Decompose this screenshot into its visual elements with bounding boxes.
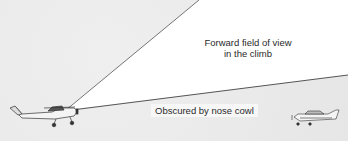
field-of-view-diagram: Forward field of view in the climb Obscu… [0,0,348,141]
fov-label-line1: Forward field of view [196,37,300,48]
climbing-aircraft-icon [10,106,78,127]
fov-label-line2: in the climb [196,48,300,59]
forward-field-of-view-label: Forward field of view in the climb [196,37,300,59]
distant-aircraft-icon [292,110,339,125]
diagram-canvas [0,0,348,141]
obscured-by-cowl-label: Obscured by nose cowl [151,104,258,117]
